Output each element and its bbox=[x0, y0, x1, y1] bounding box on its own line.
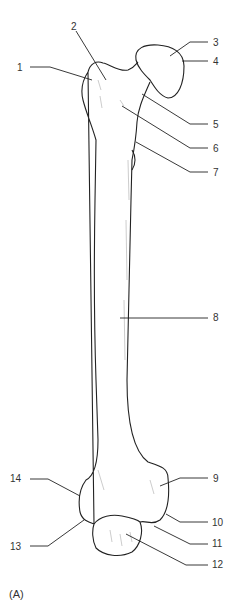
label-7: 7 bbox=[213, 168, 219, 178]
label-1: 1 bbox=[17, 63, 23, 73]
label-12: 12 bbox=[212, 560, 223, 570]
femur-illustration bbox=[0, 0, 233, 612]
label-2: 2 bbox=[71, 22, 77, 32]
label-10: 10 bbox=[212, 518, 223, 528]
label-9: 9 bbox=[213, 474, 219, 484]
femoral-head bbox=[136, 45, 184, 98]
label-13: 13 bbox=[10, 542, 21, 552]
label-11: 11 bbox=[212, 539, 222, 549]
label-8: 8 bbox=[213, 313, 219, 323]
patellar-surface bbox=[94, 515, 140, 524]
label-6: 6 bbox=[213, 144, 219, 154]
label-5: 5 bbox=[213, 120, 219, 130]
figure-caption: (A) bbox=[9, 588, 24, 600]
label-14: 14 bbox=[10, 474, 21, 484]
label-4: 4 bbox=[213, 57, 219, 67]
label-3: 3 bbox=[213, 38, 219, 48]
